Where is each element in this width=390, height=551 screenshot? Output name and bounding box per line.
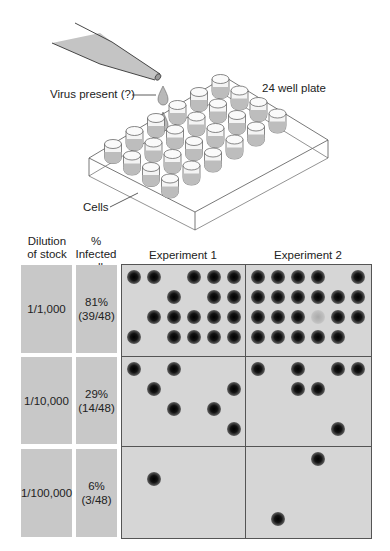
header-dilution: Dilution of stock [20, 235, 74, 261]
plaque [271, 330, 285, 344]
well-icon [212, 75, 229, 99]
percent: 81% [85, 295, 108, 309]
infected-cell-2: 29% (14/48) [76, 357, 117, 444]
well-icon [248, 122, 265, 146]
plaque [351, 310, 365, 324]
plaque [147, 270, 161, 284]
plaque [351, 270, 365, 284]
well-icon [191, 88, 208, 112]
plaque [147, 382, 161, 396]
plaque [331, 422, 345, 436]
plaque [227, 330, 241, 344]
plaque [311, 290, 325, 304]
dilution-cell-2: 1/10,000 [21, 357, 72, 444]
infected-cell-1: 81% (39/48) [76, 265, 117, 353]
plaque [147, 472, 161, 486]
well-icon [183, 161, 200, 185]
plaque [331, 330, 345, 344]
well-icon [186, 137, 203, 161]
percent: 29% [85, 387, 108, 401]
plaque [291, 290, 305, 304]
fraction: (3/48) [81, 493, 111, 507]
fraction: (14/48) [78, 401, 114, 415]
plaque [227, 422, 241, 436]
plaque [311, 270, 325, 284]
well-icon [169, 101, 186, 125]
plaque [351, 362, 365, 376]
plaque [187, 310, 201, 324]
well-icon [167, 125, 184, 149]
plaque [167, 290, 181, 304]
well-plate-diagram [0, 0, 390, 240]
pipette-icon [52, 23, 162, 81]
well-icon [124, 151, 141, 175]
plaque [167, 330, 181, 344]
well-icon [205, 148, 222, 172]
well-icon [229, 111, 246, 135]
plaque [167, 402, 181, 416]
plaque [331, 362, 345, 376]
plaque [227, 382, 241, 396]
well-icon [231, 86, 248, 110]
dilution-cell-1: 1/1,000 [21, 265, 72, 353]
plaque [127, 270, 141, 284]
header-experiment-1: Experiment 1 [121, 249, 245, 262]
plaque [207, 270, 221, 284]
plaque [251, 290, 265, 304]
well-icon [207, 124, 224, 148]
plaque [127, 362, 141, 376]
plaque [271, 310, 285, 324]
faint-plaque [311, 310, 325, 324]
header-experiment-2: Experiment 2 [245, 249, 371, 262]
percent: 6% [88, 479, 105, 493]
plaque [207, 310, 221, 324]
plaque [227, 290, 241, 304]
plaque [187, 330, 201, 344]
well-icon [188, 112, 205, 136]
well-icon [162, 174, 179, 198]
plaque [291, 270, 305, 284]
well-icon [226, 135, 243, 159]
plaque [271, 270, 285, 284]
plaque [207, 402, 221, 416]
plaque [187, 270, 201, 284]
well-icon [126, 127, 143, 151]
plaque [227, 310, 241, 324]
plaque [227, 270, 241, 284]
plaque [311, 382, 325, 396]
plaque [291, 382, 305, 396]
plaque [207, 330, 221, 344]
plaque [291, 362, 305, 376]
well-icon [269, 109, 286, 133]
plaque [251, 362, 265, 376]
infected-cell-3: 6% (3/48) [76, 449, 117, 537]
plaque [251, 310, 265, 324]
well-icon [250, 98, 267, 122]
plaque [351, 290, 365, 304]
plaque [331, 310, 345, 324]
plaque [251, 330, 265, 344]
plaque [311, 452, 325, 466]
plaque-results-grid [121, 264, 372, 539]
plaque [271, 512, 285, 526]
fraction: (39/48) [78, 309, 114, 323]
well-icon [164, 150, 181, 174]
dilution-divider-2 [122, 446, 371, 447]
experiment-divider [245, 265, 246, 538]
plaque [251, 270, 265, 284]
dilution-divider-1 [122, 356, 371, 357]
plaque [167, 362, 181, 376]
virus-present-label: Virus present (?) [50, 88, 135, 100]
plaque [147, 310, 161, 324]
droplet-icon [158, 86, 168, 105]
plaque [291, 330, 305, 344]
plaque [167, 310, 181, 324]
well-icon [210, 99, 227, 123]
well-icon [105, 140, 122, 164]
well-icon [148, 114, 165, 138]
cells-label: Cells [83, 201, 109, 213]
well-icon [145, 138, 162, 162]
plate-label: 24 well plate [262, 82, 326, 94]
plaque [127, 330, 141, 344]
plaque [331, 290, 345, 304]
